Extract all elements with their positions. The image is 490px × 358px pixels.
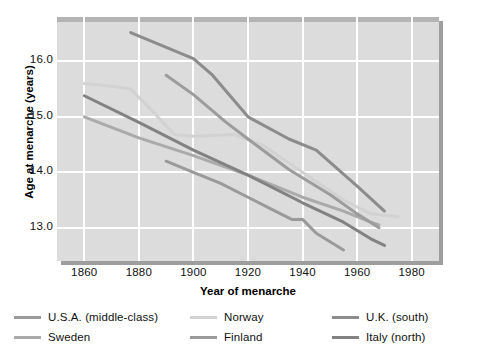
- legend-item-finland[interactable]: Finland: [190, 331, 332, 343]
- x-axis-title: Year of menarche: [57, 285, 439, 297]
- legend-item-italy-north[interactable]: Italy (north): [332, 331, 482, 343]
- series-lines: [57, 17, 439, 261]
- series-line-sweden: [84, 117, 379, 225]
- legend-swatch-icon: [14, 336, 41, 339]
- x-tick-label-1940: 1940: [278, 266, 328, 278]
- series-line-u-k-south: [131, 33, 385, 212]
- menarche-age-line-chart: 13.014.015.016.0 18601880190019201940196…: [0, 0, 490, 358]
- series-line-norway: [84, 84, 398, 217]
- legend-label: Finland: [224, 331, 262, 343]
- legend-swatch-icon: [190, 316, 217, 319]
- x-tick-label-1860: 1860: [59, 266, 109, 278]
- legend-swatch-icon: [332, 316, 359, 319]
- legend-item-u-s-a-middle-class[interactable]: U.S.A. (middle-class): [14, 311, 190, 323]
- legend-item-norway[interactable]: Norway: [190, 311, 332, 323]
- series-line-u-s-a-middle-class: [166, 161, 343, 250]
- legend-swatch-icon: [14, 316, 41, 319]
- y-axis-title: Age at menarche (years): [23, 37, 35, 227]
- chart-legend: U.S.A. (middle-class)NorwayU.K. (south)S…: [14, 307, 476, 347]
- legend-item-u-k-south[interactable]: U.K. (south): [332, 311, 482, 323]
- legend-label: Norway: [224, 311, 264, 323]
- x-tick-label-1900: 1900: [168, 266, 218, 278]
- x-tick-label-1960: 1960: [332, 266, 382, 278]
- plot-area: [57, 17, 439, 261]
- x-tick-label-1880: 1880: [114, 266, 164, 278]
- legend-swatch-icon: [190, 336, 217, 339]
- legend-label: U.S.A. (middle-class): [48, 311, 158, 323]
- legend-label: U.K. (south): [366, 311, 429, 323]
- legend-label: Italy (north): [366, 331, 425, 343]
- legend-item-sweden[interactable]: Sweden: [14, 331, 190, 343]
- x-tick-label-1920: 1920: [223, 266, 273, 278]
- legend-label: Sweden: [48, 331, 90, 343]
- x-tick-label-1980: 1980: [387, 266, 437, 278]
- legend-swatch-icon: [332, 336, 359, 339]
